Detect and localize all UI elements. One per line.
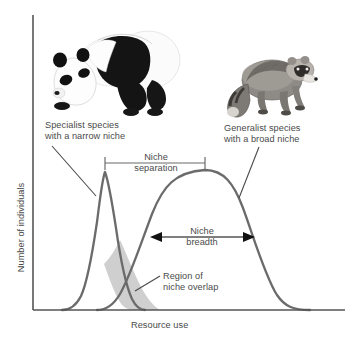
generalist-species-label: Generalist species with a broad niche bbox=[224, 123, 300, 145]
y-axis-label: Number of individuals bbox=[16, 166, 27, 290]
niche-diagram-figure: Specialist species with a narrow niche G… bbox=[0, 0, 352, 342]
niche-separation-label: Niche separation bbox=[110, 152, 202, 174]
region-of-niche-overlap-label: Region of niche overlap bbox=[163, 271, 218, 293]
specialist-species-label: Specialist species with a narrow niche bbox=[45, 120, 125, 142]
x-axis-label: Resource use bbox=[131, 320, 188, 331]
niche-breadth-label: Niche breadth bbox=[158, 226, 246, 248]
